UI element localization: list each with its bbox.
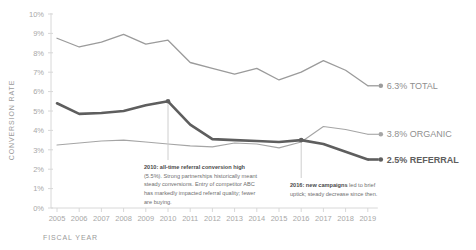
- y-axis-tick-label: 4%: [33, 126, 44, 135]
- x-axis-tick-label: 2005: [49, 214, 66, 223]
- x-axis-tick-label: 2012: [204, 214, 221, 223]
- x-axis-tick-label: 2013: [226, 214, 243, 223]
- y-axis-tick-label: 8%: [33, 49, 44, 58]
- series-end-labels: 6.3% TOTAL3.8% ORGANIC2.5% REFERRAL: [368, 81, 460, 165]
- y-axis-tick-label: 0%: [33, 204, 44, 213]
- annotation-2010-lead: 2010: all-time referral conversion high: [144, 164, 245, 170]
- annotation-2010-body: (5.5%). Strong partnerships historically…: [144, 173, 257, 205]
- x-axis-tick-label: 2017: [315, 214, 332, 223]
- end-label-total: 6.3% TOTAL: [387, 81, 438, 91]
- y-axis-tick-label: 9%: [33, 29, 44, 38]
- x-axis-tick-label: 2006: [71, 214, 88, 223]
- x-axis-tick-label: 2015: [271, 214, 288, 223]
- x-axis: 2005200620072008200920102011201220132014…: [49, 208, 378, 223]
- chart-canvas: 0%1%2%3%4%5%6%7%8%9%10% 2005200620072008…: [0, 0, 476, 250]
- y-axis-tick-label: 5%: [33, 107, 44, 116]
- end-label-organic: 3.8% ORGANIC: [387, 129, 453, 139]
- annotation-2016-lead: 2016: new campaigns: [290, 182, 348, 188]
- x-axis-tick-label: 2011: [182, 214, 198, 223]
- line-series-total: [57, 34, 368, 85]
- x-axis-tick-label: 2019: [359, 214, 376, 223]
- y-axis: 0%1%2%3%4%5%6%7%8%9%10%: [29, 10, 53, 213]
- y-axis-title: CONVERSION RATE: [8, 80, 15, 161]
- series-lines: [57, 34, 368, 159]
- y-axis-tick-label: 6%: [33, 87, 44, 96]
- y-axis-tick-label: 1%: [33, 184, 44, 193]
- y-axis-tick-label: 7%: [33, 68, 44, 77]
- x-axis-title: FISCAL YEAR: [43, 234, 98, 241]
- x-axis-tick-label: 2016: [293, 214, 310, 223]
- annotation-2016: 2016: new campaigns led to brief uptick;…: [290, 181, 380, 198]
- end-dot-organic: [379, 132, 384, 137]
- line-series-referral: [57, 101, 368, 159]
- x-axis-tick-label: 2008: [115, 214, 132, 223]
- x-axis-tick-label: 2014: [248, 214, 265, 223]
- conversion-rate-line-chart: 0%1%2%3%4%5%6%7%8%9%10% 2005200620072008…: [0, 0, 476, 250]
- y-axis-tick-label: 2%: [33, 165, 44, 174]
- end-dot-referral: [379, 157, 384, 162]
- x-axis-tick-label: 2010: [160, 214, 177, 223]
- marker-2016: [299, 138, 304, 143]
- x-axis-tick-label: 2007: [93, 214, 110, 223]
- end-dot-total: [379, 83, 384, 88]
- marker-2010: [166, 99, 171, 104]
- annotation-2010: 2010: all-time referral conversion high …: [144, 163, 262, 206]
- x-axis-tick-label: 2018: [337, 214, 354, 223]
- y-axis-tick-label: 10%: [29, 10, 44, 19]
- y-axis-tick-label: 3%: [33, 146, 44, 155]
- end-label-referral: 2.5% REFERRAL: [387, 155, 460, 165]
- x-axis-tick-label: 2009: [137, 214, 154, 223]
